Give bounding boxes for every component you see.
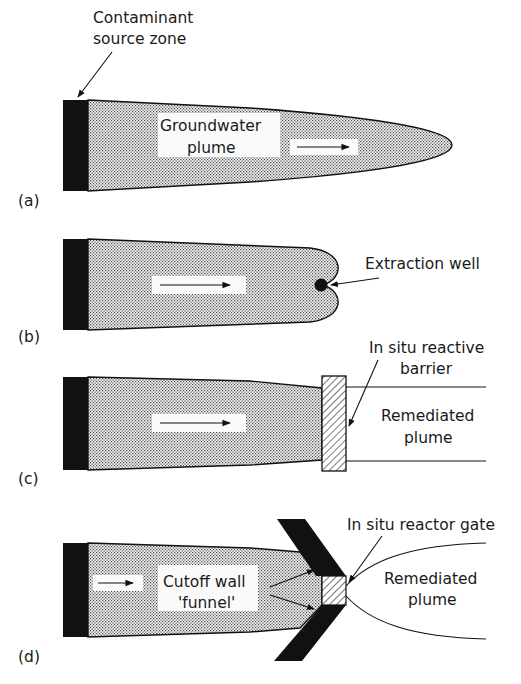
source-pointer-arrow — [78, 52, 112, 97]
remediated-label-line1: Remediated — [381, 407, 474, 425]
panel-a: Contaminant source zone Groundwater plum… — [18, 9, 452, 210]
panel-label-a: (a) — [18, 192, 40, 210]
funnel-label-line2: 'funnel' — [178, 594, 235, 612]
plume-label-line1: Groundwater — [160, 117, 262, 135]
barrier-label-line2: barrier — [400, 360, 453, 378]
source-label-line2: source zone — [93, 30, 186, 48]
remediated-label-line2: plume — [408, 591, 457, 609]
plume-label-line2: plume — [187, 139, 236, 157]
extraction-well-label: Extraction well — [365, 255, 480, 273]
in-situ-reactor-gate — [322, 576, 346, 605]
contaminant-source-zone — [63, 239, 88, 330]
panel-label-c: (c) — [18, 470, 39, 488]
reactor-gate-pointer — [349, 536, 382, 582]
source-label-line1: Contaminant — [93, 9, 193, 27]
contaminant-source-zone — [63, 100, 88, 191]
reactor-gate-label: In situ reactor gate — [347, 516, 495, 534]
extraction-well — [315, 279, 328, 292]
contaminant-source-zone — [63, 377, 88, 470]
barrier-pointer — [349, 360, 378, 426]
panel-c: In situ reactive barrier Remediated plum… — [18, 339, 486, 488]
panel-d: In situ reactor gate Cutoff wall 'funnel… — [18, 516, 495, 666]
panel-label-b: (b) — [18, 328, 40, 346]
panel-label-d: (d) — [18, 648, 40, 666]
in-situ-reactive-barrier — [322, 376, 346, 471]
extraction-well-pointer — [331, 278, 379, 285]
remediated-label-line1: Remediated — [384, 570, 477, 588]
remediation-diagram: Contaminant source zone Groundwater plum… — [0, 0, 521, 684]
barrier-label-line1: In situ reactive — [369, 339, 484, 357]
panel-b: Extraction well (b) — [18, 239, 480, 346]
funnel-label-line1: Cutoff wall — [163, 573, 246, 591]
contaminant-source-zone — [63, 543, 88, 637]
remediated-label-line2: plume — [404, 429, 453, 447]
